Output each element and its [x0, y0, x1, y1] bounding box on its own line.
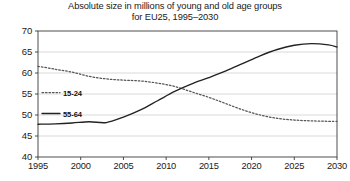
chart-container: Absolute size in millions of young and o… — [0, 0, 350, 181]
x-axis-label-2000: 2000 — [61, 161, 101, 171]
y-axis-label-65: 65 — [2, 46, 32, 57]
plot-area — [0, 0, 350, 181]
x-axis-label-2005: 2005 — [103, 161, 143, 171]
y-axis-label-50: 50 — [2, 109, 32, 120]
x-axis-label-2025: 2025 — [274, 161, 314, 171]
y-axis-label-60: 60 — [2, 67, 32, 78]
x-axis-label-1995: 1995 — [18, 161, 58, 171]
y-axis-label-70: 70 — [2, 25, 32, 36]
y-axis-label-45: 45 — [2, 130, 32, 141]
y-axis-label-55: 55 — [2, 88, 32, 99]
legend-label-15-24: 15-24 — [63, 89, 82, 98]
x-axis-label-2030: 2030 — [317, 161, 350, 171]
x-axis-label-2020: 2020 — [232, 161, 272, 171]
series-line-55-64 — [38, 44, 337, 125]
x-axis-label-2015: 2015 — [189, 161, 229, 171]
x-axis-label-2010: 2010 — [146, 161, 186, 171]
legend-label-55-64: 55-64 — [63, 110, 82, 119]
